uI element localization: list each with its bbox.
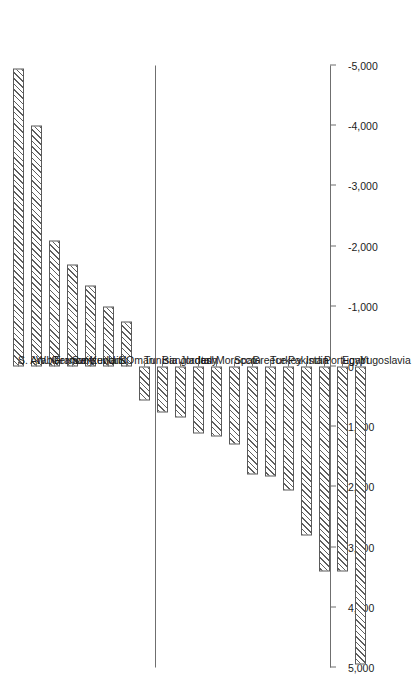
bar-tunisia — [139, 366, 150, 400]
value-tick — [330, 64, 336, 65]
value-tick — [330, 485, 336, 486]
bar-chart: -5,000-4,000-3,000-2,000-1,00001,0002,00… — [0, 0, 414, 695]
value-tick — [330, 606, 336, 607]
bar-italy — [193, 366, 204, 433]
value-tick — [330, 666, 336, 667]
bar-egypt — [337, 366, 348, 571]
value-tick-label: -1,000 — [348, 300, 378, 312]
category-label: Yugoslavia — [360, 353, 411, 365]
bar-bangladesh — [157, 366, 168, 412]
value-tick — [330, 546, 336, 547]
figure-caption: Figure 4.5Money remitted by migrant work… — [402, 689, 414, 695]
value-tick — [330, 184, 336, 185]
value-tick — [330, 245, 336, 246]
bar-spain — [229, 366, 240, 444]
bar-morocco — [211, 366, 222, 436]
bar-france — [49, 240, 60, 366]
value-tick — [330, 124, 336, 125]
bar-jordan — [175, 366, 186, 417]
category-label: Italy — [198, 353, 217, 365]
bar-turkey — [265, 366, 276, 476]
bar-w-germany — [31, 125, 42, 366]
value-tick-label: -3,000 — [348, 179, 378, 191]
value-tick — [330, 425, 336, 426]
value-tick-label: -2,000 — [348, 240, 378, 252]
bar-switzerland — [67, 264, 78, 366]
bar-yugoslavia — [355, 366, 366, 664]
bar-greece — [247, 366, 258, 474]
value-tick-label: -5,000 — [348, 59, 378, 71]
bar-portugal — [319, 366, 330, 571]
value-tick-label: -4,000 — [348, 119, 378, 131]
bar-pakistan — [283, 366, 294, 490]
bar-india — [301, 366, 312, 535]
bar-s-arabia — [13, 68, 24, 366]
value-tick — [330, 305, 336, 306]
figure-chart-container: -5,000-4,000-3,000-2,000-1,00001,0002,00… — [0, 0, 414, 695]
